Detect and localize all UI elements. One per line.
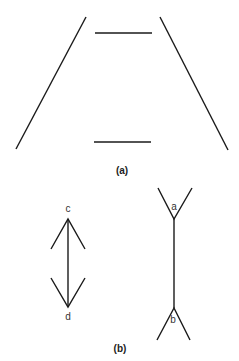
- caption-a: (a): [116, 165, 128, 176]
- label-d: d: [65, 311, 71, 322]
- fins-figure-ab: a b: [157, 188, 192, 340]
- arrowheads-figure-cd: c d: [51, 203, 85, 322]
- figure-b-muller-lyer: c d a b (b): [51, 188, 192, 354]
- label-a: a: [171, 201, 177, 212]
- caption-b: (b): [114, 343, 127, 354]
- label-b: b: [170, 314, 176, 325]
- figure-a-ponzo: (a): [16, 17, 228, 176]
- illusion-diagram: (a) c d a b (b): [0, 0, 239, 361]
- left-oblique-line: [16, 17, 86, 149]
- label-c: c: [66, 203, 71, 214]
- right-oblique-line: [160, 17, 228, 150]
